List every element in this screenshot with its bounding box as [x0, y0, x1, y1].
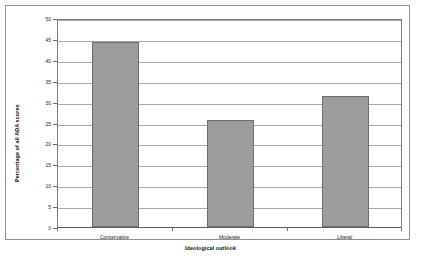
x-axis-tick [172, 228, 173, 231]
y-axis-tick-label: 35 [45, 79, 51, 84]
bar-chart-figure: Percentage of all ADA scores 05101520253… [0, 0, 421, 265]
x-axis-title: Ideological outlook [0, 245, 421, 251]
bar [322, 96, 369, 227]
x-axis-category-label: Liberal [337, 234, 352, 240]
y-axis-tick-label: 5 [48, 205, 51, 210]
x-axis-category-label: Conservative [100, 234, 129, 240]
y-axis: 05101520253035404550 [0, 0, 57, 247]
bar [92, 42, 139, 227]
y-axis-tick-label: 15 [45, 163, 51, 168]
y-axis-tick-label: 0 [48, 226, 51, 231]
y-axis-tick-label: 25 [45, 121, 51, 126]
bar [207, 120, 254, 227]
bars-layer [58, 20, 401, 227]
y-axis-tick-label: 10 [45, 184, 51, 189]
x-axis-category-label: Moderate [219, 234, 240, 240]
plot-area [57, 19, 402, 228]
x-axis-tick [57, 228, 58, 231]
y-axis-tick-label: 45 [45, 37, 51, 42]
x-axis-tick [401, 228, 402, 231]
y-axis-tick-label: 30 [45, 100, 51, 105]
y-axis-tick-label: 50 [45, 17, 51, 22]
y-axis-tick-label: 20 [45, 142, 51, 147]
y-axis-tick-label: 40 [45, 58, 51, 63]
x-axis-tick [287, 228, 288, 231]
